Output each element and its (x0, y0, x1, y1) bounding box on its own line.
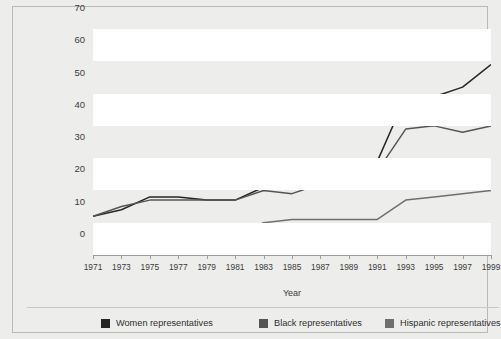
x-tick (463, 255, 464, 259)
x-tick-label: 1991 (368, 262, 387, 272)
legend-label: Black representatives (274, 318, 362, 328)
x-tick-label: 1975 (141, 262, 160, 272)
x-tick (93, 255, 94, 259)
x-tick-label: 1995 (425, 262, 444, 272)
grid-band (93, 223, 491, 255)
y-tick-label: 50 (74, 66, 85, 77)
grid-band (93, 158, 491, 190)
y-tick-label: 10 (74, 195, 85, 206)
x-tick (406, 255, 407, 259)
x-tick-label: 1997 (453, 262, 472, 272)
x-tick-label: 1983 (254, 262, 273, 272)
legend-label: Women representatives (116, 318, 213, 328)
x-tick (349, 255, 350, 259)
y-tick-label: 0 (80, 228, 85, 239)
x-tick (434, 255, 435, 259)
legend-swatch-icon (101, 319, 110, 328)
x-tick-label: 1985 (283, 262, 302, 272)
x-tick-label: 1979 (197, 262, 216, 272)
x-tick-label: 1987 (311, 262, 330, 272)
y-axis-tick-labels: 010203040506070 (53, 7, 93, 233)
grid-band (93, 29, 491, 61)
legend-item: Women representatives (101, 318, 213, 328)
x-tick (264, 255, 265, 259)
x-tick (320, 255, 321, 259)
x-tick (377, 255, 378, 259)
x-tick (121, 255, 122, 259)
x-tick (207, 255, 208, 259)
legend-separator (27, 307, 499, 308)
series-lines (93, 29, 491, 255)
x-tick (178, 255, 179, 259)
plot-canvas (93, 29, 491, 255)
x-tick (292, 255, 293, 259)
x-tick-label: 1971 (84, 262, 103, 272)
chart-frame: Number of Representatives 01020304050607… (12, 6, 488, 333)
legend-swatch-icon (259, 319, 268, 328)
x-tick (235, 255, 236, 259)
grid-band (93, 94, 491, 126)
y-tick-label: 70 (74, 2, 85, 13)
x-tick (150, 255, 151, 259)
x-tick-label: 1973 (112, 262, 131, 272)
chart-legend: Women representativesBlack representativ… (27, 318, 499, 334)
legend-label: Hispanic representatives (400, 318, 501, 328)
y-tick-label: 60 (74, 34, 85, 45)
x-tick-label: 1977 (169, 262, 188, 272)
y-tick-label: 40 (74, 98, 85, 109)
plot-area (93, 29, 491, 255)
x-axis-title: Year (93, 288, 491, 298)
x-tick-label: 1981 (226, 262, 245, 272)
x-tick-label: 1989 (340, 262, 359, 272)
x-tick-label: 1999 (482, 262, 501, 272)
y-tick-label: 30 (74, 131, 85, 142)
x-tick-label: 1993 (396, 262, 415, 272)
y-tick-label: 20 (74, 163, 85, 174)
legend-swatch-icon (385, 319, 394, 328)
x-tick (491, 255, 492, 259)
legend-item: Black representatives (259, 318, 362, 328)
legend-item: Hispanic representatives (385, 318, 501, 328)
